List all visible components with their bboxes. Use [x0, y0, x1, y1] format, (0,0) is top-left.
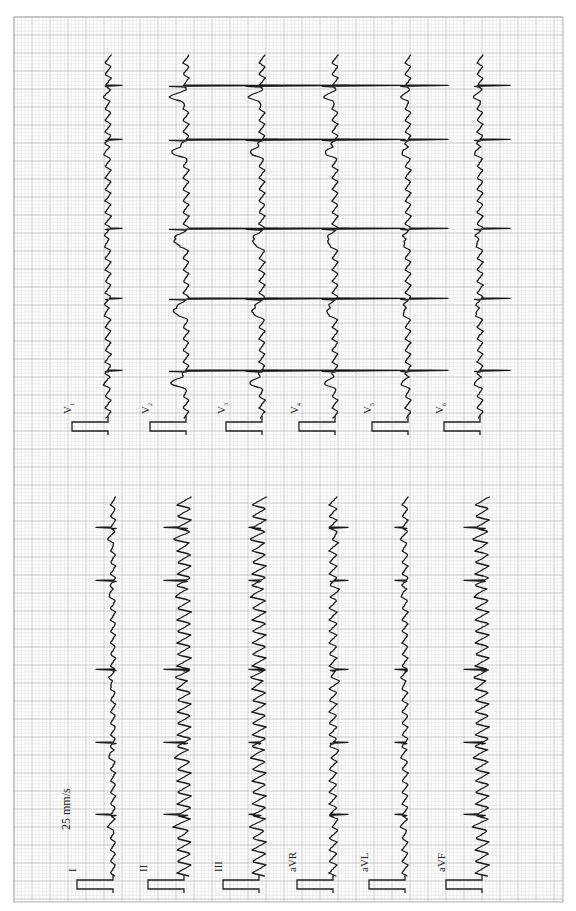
lead-label-subscript: 6: [441, 403, 447, 406]
calibration-pulse: [148, 874, 184, 893]
lead-label: V3: [215, 403, 229, 414]
lead-label-subscript: 4: [296, 403, 302, 406]
lead-label: I: [66, 868, 78, 872]
paper-speed-label: 25 mm/s: [59, 788, 73, 830]
lead-i: I: [66, 497, 116, 893]
lead-label-subscript: 5: [369, 403, 375, 406]
calibration-pulse: [226, 416, 262, 435]
lead-label: II: [137, 864, 149, 872]
lead-label: aVR: [286, 851, 298, 872]
lead-avr: aVR: [286, 497, 348, 893]
lead-label: aVF: [435, 853, 447, 872]
lead-v1: V1: [61, 55, 122, 435]
lead-avl: aVL: [358, 497, 408, 893]
ecg-sheet: IIIIIIaVRaVLaVF V1V2V3V4V5V6 25 mm/s: [0, 0, 576, 911]
limb-leads-panel: IIIIIIaVRaVLaVF: [66, 497, 489, 893]
lead-label-subscript: 1: [69, 403, 75, 406]
lead-avf: aVF: [435, 497, 489, 893]
lead-label: III: [212, 861, 224, 872]
calibration-pulse: [150, 416, 186, 435]
ecg-grid: [14, 17, 563, 902]
lead-label-subscript: 3: [223, 403, 229, 406]
calibration-pulse: [299, 416, 335, 435]
calibration-pulse: [72, 416, 108, 435]
lead-label: aVL: [358, 852, 370, 872]
lead-iii: III: [212, 497, 266, 893]
lead-label: V2: [139, 403, 153, 414]
lead-label-subscript: 2: [147, 403, 153, 406]
